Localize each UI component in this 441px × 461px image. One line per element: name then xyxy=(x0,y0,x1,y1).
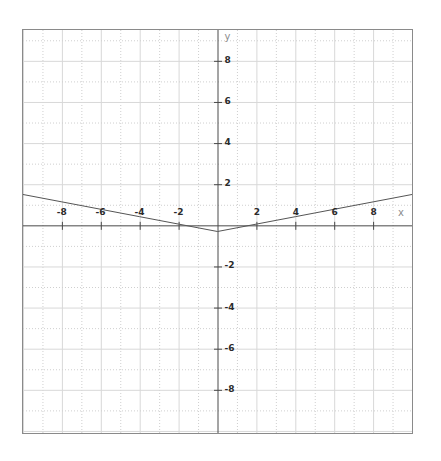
x-tick-label-neg6: -6 xyxy=(96,208,106,217)
x-tick-label-8: 8 xyxy=(371,208,377,217)
x-tick-label-neg8: -8 xyxy=(57,208,67,217)
y-tick-label-neg6: -6 xyxy=(225,344,235,353)
x-axis-name: x xyxy=(398,208,404,218)
x-tick-label-2: 2 xyxy=(254,208,260,217)
x-tick-label-6: 6 xyxy=(332,208,338,217)
x-tick-label-neg4: -4 xyxy=(135,208,145,217)
x-tick-label-4: 4 xyxy=(293,208,299,217)
y-tick-label-4: 4 xyxy=(225,138,231,147)
y-tick-label-neg4: -4 xyxy=(225,303,235,312)
y-tick-label-8: 8 xyxy=(225,56,231,65)
plot-curve xyxy=(23,30,412,433)
y-tick-label-neg8: -8 xyxy=(225,385,235,394)
x-tick-label-neg2: -2 xyxy=(173,208,183,217)
y-tick-label-6: 6 xyxy=(225,97,231,106)
plot-area: -8-6-4-224688642-2-4-6-8xy xyxy=(22,29,413,434)
y-axis-name: y xyxy=(225,32,231,42)
y-tick-label-neg2: -2 xyxy=(225,261,235,270)
y-tick-label-2: 2 xyxy=(225,179,231,188)
graph-figure: -8-6-4-224688642-2-4-6-8xy xyxy=(0,0,441,461)
